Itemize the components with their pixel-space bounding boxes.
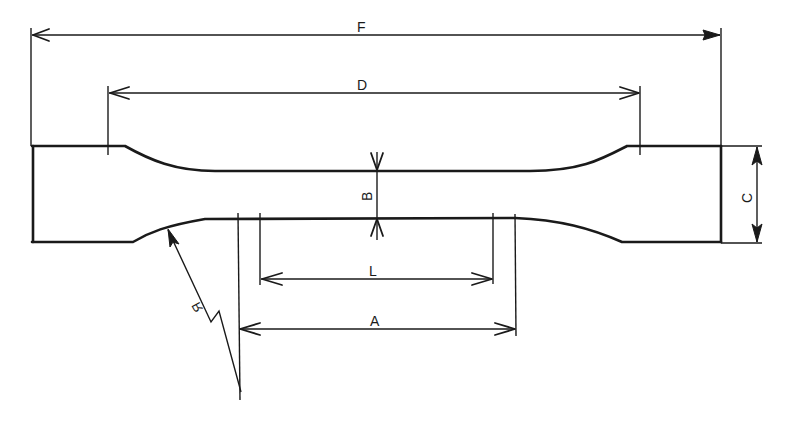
dimension-c: C (721, 146, 762, 243)
label-d: D (357, 77, 367, 93)
label-b: B (359, 192, 375, 201)
label-c: C (739, 193, 755, 203)
dimension-f: F (31, 19, 721, 146)
dimension-b: B (359, 152, 383, 240)
dimension-d: D (108, 77, 640, 155)
label-a: A (370, 313, 380, 329)
dimension-a: A (238, 213, 516, 400)
specimen-drawing: F D B C L A (0, 0, 793, 434)
label-l: L (369, 263, 377, 279)
dimension-r: R (168, 229, 241, 392)
label-r: R (188, 300, 206, 315)
label-f: F (357, 19, 366, 35)
